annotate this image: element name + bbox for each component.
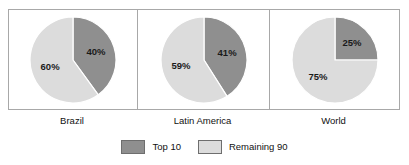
- pie-slice-label-remaining-90: 75%: [308, 70, 328, 81]
- world-pie: 25%75%: [291, 16, 379, 104]
- pie-slice-label-remaining-90: 59%: [171, 60, 191, 71]
- plot-frame: 40%60% 41%59% 25%75%: [8, 9, 400, 110]
- pie-panel-latin-america: 41%59%: [138, 10, 269, 109]
- brazil-pie: 40%60%: [29, 16, 117, 104]
- legend-swatch-remaining-90: [198, 140, 222, 154]
- legend-label-remaining-90: Remaining 90: [229, 141, 288, 153]
- category-label-world: World: [269, 114, 398, 128]
- pie-chart-figure: 40%60% 41%59% 25%75% Brazil Latin Americ…: [0, 0, 409, 165]
- category-label-brazil: Brazil: [8, 114, 136, 128]
- legend-label-top-10: Top 10: [152, 141, 181, 153]
- pie-slice-label-top-10: 25%: [342, 36, 362, 47]
- legend-entry-remaining-90: Remaining 90: [198, 140, 288, 154]
- pie-panel-world: 25%75%: [270, 10, 399, 109]
- legend-swatch-top-10: [121, 140, 145, 154]
- pie-slice-label-top-10: 41%: [217, 46, 237, 57]
- latin-america-pie: 41%59%: [160, 16, 248, 104]
- legend-entry-top-10: Top 10: [121, 140, 181, 154]
- pie-panel-brazil: 40%60%: [9, 10, 137, 109]
- chart-legend: Top 10 Remaining 90: [0, 140, 409, 154]
- pie-slice-label-remaining-90: 60%: [41, 60, 61, 71]
- category-label-row: Brazil Latin America World: [8, 114, 400, 130]
- pie-slice-label-top-10: 40%: [86, 46, 106, 57]
- category-label-latin-america: Latin America: [137, 114, 268, 128]
